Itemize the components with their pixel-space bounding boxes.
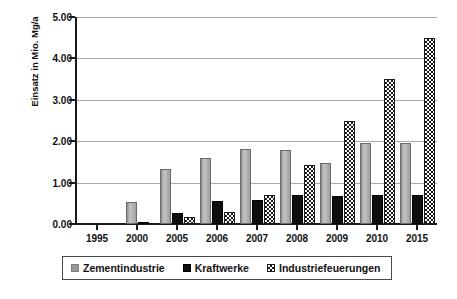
bar <box>264 195 275 224</box>
x-axis-tick-mark <box>376 225 378 230</box>
bar <box>200 158 211 224</box>
x-axis-tick-mark <box>96 225 98 230</box>
y-axis-tick-label: 0.00 <box>26 219 72 230</box>
bar-group <box>77 17 117 224</box>
y-axis-tick-mark <box>69 140 75 142</box>
bar <box>400 143 411 224</box>
bar <box>224 212 235 224</box>
bar <box>240 149 251 224</box>
bar <box>138 222 149 224</box>
bar-group <box>237 17 277 224</box>
bar-group <box>317 17 357 224</box>
bar-group <box>117 17 157 224</box>
legend-item[interactable]: Industriefeuerungen <box>267 262 381 274</box>
bar <box>292 195 303 224</box>
x-axis-tick-mark <box>296 225 298 230</box>
bar <box>344 121 355 225</box>
legend-item-label: Industriefeuerungen <box>279 262 381 274</box>
bar <box>332 196 343 224</box>
chart-legend: ZementindustrieKraftwerkeIndustriefeueru… <box>62 256 392 280</box>
bar <box>372 195 383 224</box>
x-axis-tick-mark <box>336 225 338 230</box>
x-axis-tick-mark <box>416 225 418 230</box>
y-axis-tick-mark <box>69 16 75 18</box>
legend-item[interactable]: Kraftwerke <box>183 262 249 274</box>
bar <box>126 202 137 224</box>
bar-group <box>397 17 437 224</box>
bars-layer <box>77 17 437 224</box>
bar-group <box>277 17 317 224</box>
bar <box>412 195 423 224</box>
black-square-icon <box>183 264 191 272</box>
y-axis-tick-label: 5.00 <box>26 12 72 23</box>
bar <box>320 163 331 224</box>
bar <box>384 79 395 224</box>
y-axis-tick-mark <box>69 99 75 101</box>
bar-group <box>357 17 397 224</box>
bar <box>184 217 195 224</box>
bar <box>252 200 263 224</box>
y-axis-tick-mark <box>69 57 75 59</box>
bar <box>172 213 183 224</box>
legend-item-label: Kraftwerke <box>195 262 249 274</box>
y-axis-tick-mark <box>69 223 75 225</box>
legend-item[interactable]: Zementindustrie <box>71 262 165 274</box>
bar <box>304 165 315 224</box>
y-axis-tick-mark <box>69 182 75 184</box>
bar <box>212 201 223 224</box>
legend-item-label: Zementindustrie <box>83 262 165 274</box>
x-axis-tick-mark <box>136 225 138 230</box>
bar <box>360 143 371 224</box>
bar <box>424 38 435 224</box>
y-axis-tick-label: 1.00 <box>26 177 72 188</box>
bar-group <box>157 17 197 224</box>
x-axis-tick-mark <box>256 225 258 230</box>
gray-square-icon <box>71 264 79 272</box>
bar-chart: Einsatz in Mio. Mg/a 0.001.002.003.004.0… <box>0 0 457 299</box>
bar <box>160 169 171 224</box>
y-axis-tick-label: 4.00 <box>26 53 72 64</box>
x-axis-tick-label: 2015 <box>394 233 440 244</box>
x-axis-tick-mark <box>176 225 178 230</box>
bar-group <box>197 17 237 224</box>
y-axis-tick-label: 3.00 <box>26 94 72 105</box>
bar <box>280 150 291 224</box>
x-axis-tick-mark <box>216 225 218 230</box>
y-axis-tick-label: 2.00 <box>26 136 72 147</box>
checkered-square-icon <box>267 264 275 272</box>
